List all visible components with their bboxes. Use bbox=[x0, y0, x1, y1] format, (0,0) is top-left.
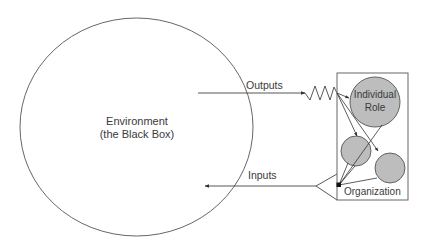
inputs-funnel bbox=[316, 174, 337, 200]
inputs-label: Inputs bbox=[248, 169, 277, 181]
environment-label-line1: Environment bbox=[86, 115, 188, 128]
environment-label-line2: (the Black Box) bbox=[86, 128, 188, 141]
member-circle-right bbox=[375, 153, 405, 183]
spring-zigzag bbox=[305, 86, 337, 100]
individual-role-label: Individual Role bbox=[352, 88, 398, 114]
individual-role-line1: Individual bbox=[352, 88, 398, 101]
junction-node bbox=[337, 183, 342, 188]
outputs-label: Outputs bbox=[246, 79, 283, 91]
individual-role-line2: Role bbox=[352, 101, 398, 114]
diagram-canvas bbox=[0, 0, 428, 249]
organization-label: Organization bbox=[344, 186, 401, 197]
environment-label: Environment (the Black Box) bbox=[86, 115, 188, 141]
